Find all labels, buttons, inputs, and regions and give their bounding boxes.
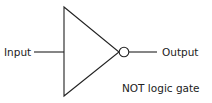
output-label: Output xyxy=(162,46,198,58)
diagram-caption: NOT logic gate xyxy=(122,82,200,94)
buffer-triangle xyxy=(64,7,119,96)
inversion-bubble xyxy=(119,47,129,57)
input-label: Input xyxy=(4,46,31,58)
not-gate-diagram: Input Output NOT logic gate xyxy=(0,0,212,103)
